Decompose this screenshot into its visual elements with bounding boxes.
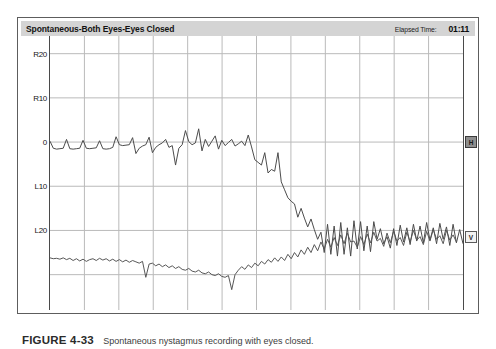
figure-caption: FIGURE 4-33 Spontaneous nystagmus record… (22, 330, 482, 349)
y-axis-tick-label: R20 (33, 49, 47, 58)
y-axis-labels: R20R100L10L20 (21, 36, 49, 310)
window-title-bar: Spontaneous-Both Eyes-Eyes Closed Elapse… (21, 21, 475, 36)
channel-marker-v[interactable]: V (465, 231, 477, 243)
y-axis-tick-label: R10 (33, 93, 47, 102)
y-axis-tick-label: L10 (35, 182, 47, 191)
y-axis-tick-label: 0 (43, 138, 47, 147)
figure-caption-text: Spontaneous nystagmus recording with eye… (103, 336, 313, 346)
elapsed-time-label: Elapsed Time: (395, 26, 437, 33)
elapsed-time-group: Elapsed Time: 01:11 (395, 24, 475, 34)
y-axis-tick-label: L20 (35, 226, 47, 235)
eng-recording-window: Spontaneous-Both Eyes-Eyes Closed Elapse… (17, 17, 479, 314)
elapsed-time-value: 01:11 (448, 24, 469, 34)
page-title: Spontaneous-Both Eyes-Eyes Closed (21, 24, 174, 34)
waveform-svg (50, 36, 463, 310)
figure-number: FIGURE 4-33 (22, 334, 94, 346)
channel-marker-h[interactable]: H (465, 136, 477, 148)
waveform-plot-area[interactable] (49, 36, 464, 310)
